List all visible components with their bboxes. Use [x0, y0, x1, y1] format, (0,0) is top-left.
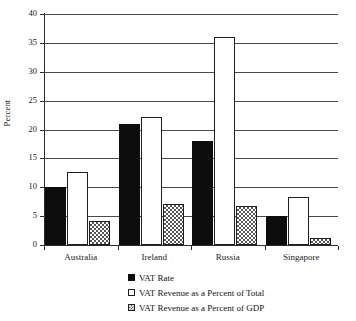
legend-swatch-icon-percent-of-total [128, 289, 135, 296]
legend-label-percent-of-gdp: VAT Revenue as a Percent of GDP [139, 303, 264, 313]
y-tick-label-40: 40 [16, 8, 37, 18]
x-category-label-russia: Russia [191, 252, 265, 262]
y-tick-label-25: 25 [16, 95, 37, 105]
y-tick-label-10: 10 [16, 181, 37, 191]
bar-ireland-series-0 [119, 124, 140, 245]
y-tick-label-15: 15 [16, 152, 37, 162]
y-tick-label-30: 30 [16, 66, 37, 76]
x-tick-mark-2 [191, 246, 192, 250]
bar-russia-series-2 [236, 206, 257, 245]
gridline-35 [44, 43, 338, 44]
y-tick-label-35: 35 [16, 37, 37, 47]
x-category-label-ireland: Ireland [118, 252, 192, 262]
y-tick-label-0: 0 [16, 239, 37, 249]
x-category-label-australia: Australia [44, 252, 118, 262]
gridline-20 [44, 130, 338, 131]
legend-item-vat-rate: VAT Rate [128, 270, 264, 285]
bar-singapore-series-0 [266, 216, 287, 245]
bar-australia-series-2 [89, 221, 110, 245]
bar-russia-series-1 [214, 37, 235, 245]
x-tick-mark-1 [118, 246, 119, 250]
gridline-40 [44, 14, 338, 15]
legend-swatch-icon-vat-rate [128, 274, 135, 281]
bar-russia-series-0 [192, 141, 213, 245]
bar-singapore-series-1 [288, 197, 309, 246]
gridline-30 [44, 72, 338, 73]
vat-bar-chart: Percent 0510152025303540 AustraliaIrelan… [0, 0, 356, 321]
bar-singapore-series-2 [310, 238, 331, 246]
bar-australia-series-0 [45, 187, 66, 245]
legend: VAT Rate VAT Revenue as a Percent of Tot… [128, 270, 264, 315]
x-tick-mark-end [338, 246, 339, 250]
gridline-25 [44, 101, 338, 102]
bar-ireland-series-2 [163, 204, 184, 245]
legend-swatch-icon-percent-of-gdp [128, 304, 135, 311]
legend-label-vat-rate: VAT Rate [139, 273, 174, 283]
x-tick-mark-3 [265, 246, 266, 250]
y-axis-title: Percent [2, 83, 12, 143]
legend-item-percent-of-gdp: VAT Revenue as a Percent of GDP [128, 300, 264, 315]
bar-ireland-series-1 [141, 117, 162, 245]
y-tick-label-20: 20 [16, 124, 37, 134]
y-tick-label-5: 5 [16, 210, 37, 220]
legend-item-percent-of-total: VAT Revenue as a Percent of Total [128, 285, 264, 300]
gridline-15 [44, 158, 338, 159]
bar-australia-series-1 [67, 172, 88, 245]
legend-label-percent-of-total: VAT Revenue as a Percent of Total [139, 288, 264, 298]
x-category-label-singapore: Singapore [265, 252, 339, 262]
x-tick-mark-0 [44, 246, 45, 250]
plot-area [44, 14, 338, 245]
